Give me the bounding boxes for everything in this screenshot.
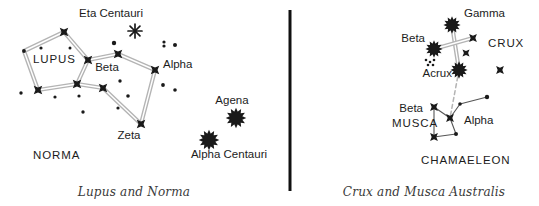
faint-star [425, 59, 428, 62]
faint-star [19, 91, 22, 94]
bright-star-core [447, 20, 457, 30]
faint-star [81, 110, 84, 113]
star-chart-figure: Eta CentauriBetaAlphaZetaAgenaAlpha Cent… [0, 0, 539, 206]
asterisk-core [133, 29, 136, 32]
bright-star-core [454, 65, 464, 75]
constellation-label: MUSCA [392, 117, 438, 129]
faint-star [118, 79, 121, 82]
star-label: Beta [95, 61, 119, 73]
star-chart-canvas: Eta CentauriBetaAlphaZetaAgenaAlpha Cent… [0, 0, 539, 206]
bright-star-core [230, 112, 242, 124]
faint-star [433, 59, 436, 62]
faint-star [454, 132, 458, 136]
faint-star [429, 61, 432, 64]
star-label: Beta [399, 102, 423, 114]
faint-star [173, 88, 177, 92]
star-label: Zeta [117, 129, 141, 141]
bright-star-core [203, 134, 215, 146]
caption-left-panel: Lupus and Norma [77, 185, 190, 199]
asterisk-star [128, 24, 142, 38]
faint-star [116, 106, 119, 109]
faint-star [126, 94, 130, 98]
faint-star [485, 95, 489, 99]
chart-background [0, 0, 539, 206]
faint-star [432, 64, 435, 67]
star-label: Eta Centauri [79, 7, 143, 19]
faint-star [112, 41, 116, 45]
faint-star [69, 47, 72, 50]
faint-star [39, 46, 42, 49]
faint-star [162, 44, 165, 47]
star-label: Alpha [464, 114, 494, 126]
caption-right-panel: Crux and Musca Australis [343, 185, 505, 199]
faint-star [77, 94, 80, 97]
faint-star [173, 43, 177, 47]
faint-star [162, 40, 165, 43]
faint-star [161, 83, 165, 87]
bright-star-core [429, 44, 439, 54]
faint-star [22, 49, 26, 53]
star-label: Acrux [423, 67, 453, 79]
constellation-label: LUPUS [33, 53, 76, 65]
star-label: Agena [215, 94, 249, 106]
faint-star [458, 102, 462, 106]
star-label: Alpha Centauri [191, 148, 267, 160]
faint-star [427, 64, 430, 67]
constellation-label: CHAMAELEON [421, 154, 511, 166]
star-label: Alpha [163, 58, 193, 70]
faint-star [53, 95, 56, 98]
constellation-label: CRUX [488, 37, 524, 49]
star-label: Gamma [464, 7, 506, 19]
star-label: Beta [401, 32, 425, 44]
constellation-label: NORMA [33, 149, 80, 161]
